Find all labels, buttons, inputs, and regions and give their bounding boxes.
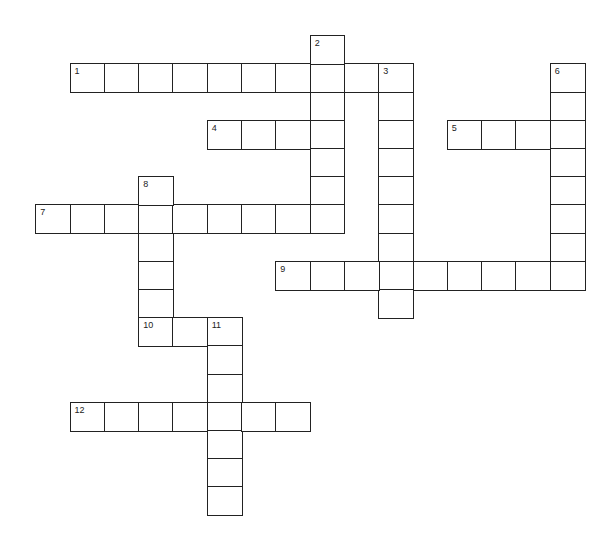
crossword-cell[interactable]: 11 bbox=[207, 317, 243, 347]
crossword-cell[interactable]: 7 bbox=[35, 204, 71, 234]
crossword-cell[interactable] bbox=[515, 261, 551, 291]
crossword-cell[interactable] bbox=[481, 120, 517, 150]
crossword-cell[interactable] bbox=[550, 204, 586, 234]
crossword-cell[interactable] bbox=[172, 63, 208, 93]
crossword-cell[interactable] bbox=[378, 120, 414, 150]
crossword-cell[interactable] bbox=[275, 120, 311, 150]
crossword-cell[interactable] bbox=[378, 261, 414, 291]
crossword-cell[interactable]: 2 bbox=[310, 35, 346, 65]
crossword-cell[interactable] bbox=[207, 458, 243, 488]
crossword-cell[interactable] bbox=[138, 402, 174, 432]
crossword-cell[interactable] bbox=[241, 63, 277, 93]
clue-number: 1 bbox=[75, 67, 80, 76]
crossword-cell[interactable] bbox=[550, 176, 586, 206]
crossword-cell[interactable] bbox=[275, 63, 311, 93]
clue-number: 7 bbox=[40, 208, 45, 217]
crossword-cell[interactable] bbox=[207, 345, 243, 375]
crossword-cell[interactable]: 1 bbox=[70, 63, 106, 93]
crossword-cell[interactable] bbox=[275, 402, 311, 432]
clue-number: 8 bbox=[143, 180, 148, 189]
crossword-cell[interactable] bbox=[275, 204, 311, 234]
crossword-cell[interactable] bbox=[378, 204, 414, 234]
crossword-cell[interactable] bbox=[550, 120, 586, 150]
crossword-cell[interactable] bbox=[241, 402, 277, 432]
clue-number: 11 bbox=[212, 321, 221, 330]
crossword-cell[interactable] bbox=[104, 402, 140, 432]
clue-number: 3 bbox=[383, 67, 388, 76]
crossword-cell[interactable] bbox=[447, 261, 483, 291]
clue-number: 12 bbox=[75, 406, 85, 415]
crossword-cell[interactable] bbox=[207, 374, 243, 404]
crossword-cell[interactable] bbox=[378, 148, 414, 178]
crossword-cell[interactable] bbox=[378, 289, 414, 319]
crossword-cell[interactable] bbox=[138, 204, 174, 234]
crossword-cell[interactable] bbox=[344, 261, 380, 291]
crossword-cell[interactable] bbox=[310, 148, 346, 178]
crossword-grid: 132456781091112 bbox=[0, 0, 604, 549]
crossword-cell[interactable] bbox=[70, 204, 106, 234]
crossword-cell[interactable]: 6 bbox=[550, 63, 586, 93]
crossword-cell[interactable]: 3 bbox=[378, 63, 414, 93]
crossword-cell[interactable] bbox=[104, 204, 140, 234]
crossword-cell[interactable]: 8 bbox=[138, 176, 174, 206]
crossword-cell[interactable] bbox=[550, 233, 586, 263]
clue-number: 6 bbox=[555, 67, 560, 76]
crossword-cell[interactable] bbox=[172, 204, 208, 234]
crossword-cell[interactable] bbox=[550, 148, 586, 178]
crossword-cell[interactable]: 12 bbox=[70, 402, 106, 432]
clue-number: 10 bbox=[143, 321, 153, 330]
crossword-cell[interactable] bbox=[310, 63, 346, 93]
crossword-cell[interactable] bbox=[310, 120, 346, 150]
clue-number: 5 bbox=[452, 124, 457, 133]
clue-number: 9 bbox=[280, 265, 285, 274]
crossword-cell[interactable] bbox=[104, 63, 140, 93]
crossword-cell[interactable] bbox=[550, 261, 586, 291]
crossword-cell[interactable] bbox=[138, 261, 174, 291]
clue-number: 4 bbox=[212, 124, 217, 133]
crossword-cell[interactable] bbox=[481, 261, 517, 291]
crossword-cell[interactable]: 4 bbox=[207, 120, 243, 150]
crossword-cell[interactable] bbox=[378, 92, 414, 122]
crossword-cell[interactable] bbox=[550, 92, 586, 122]
crossword-cell[interactable] bbox=[138, 233, 174, 263]
crossword-cell[interactable] bbox=[310, 176, 346, 206]
crossword-cell[interactable] bbox=[207, 402, 243, 432]
crossword-cell[interactable] bbox=[310, 92, 346, 122]
crossword-cell[interactable] bbox=[207, 486, 243, 516]
crossword-cell[interactable]: 9 bbox=[275, 261, 311, 291]
crossword-cell[interactable] bbox=[172, 402, 208, 432]
crossword-cell[interactable] bbox=[138, 289, 174, 319]
clue-number: 2 bbox=[315, 39, 320, 48]
crossword-cell[interactable] bbox=[207, 204, 243, 234]
crossword-cell[interactable] bbox=[241, 204, 277, 234]
crossword-cell[interactable] bbox=[310, 204, 346, 234]
crossword-cell[interactable] bbox=[138, 63, 174, 93]
crossword-cell[interactable] bbox=[310, 261, 346, 291]
crossword-cell[interactable] bbox=[413, 261, 449, 291]
crossword-cell[interactable] bbox=[378, 176, 414, 206]
crossword-cell[interactable] bbox=[344, 63, 380, 93]
crossword-cell[interactable] bbox=[515, 120, 551, 150]
crossword-cell[interactable] bbox=[207, 430, 243, 460]
crossword-cell[interactable] bbox=[378, 233, 414, 263]
crossword-cell[interactable] bbox=[207, 63, 243, 93]
crossword-cell[interactable]: 5 bbox=[447, 120, 483, 150]
crossword-cell[interactable]: 10 bbox=[138, 317, 174, 347]
crossword-cell[interactable] bbox=[241, 120, 277, 150]
crossword-cell[interactable] bbox=[172, 317, 208, 347]
